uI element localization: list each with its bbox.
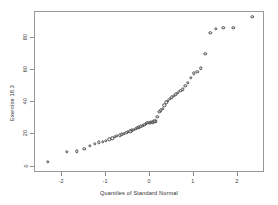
y-axis-tick-label: 80 — [22, 34, 28, 40]
data-point — [82, 147, 85, 150]
x-axis-tick-label: 2 — [235, 178, 238, 184]
data-point — [251, 15, 254, 18]
y-axis-label: Exercise 18.3 — [6, 0, 18, 205]
data-point — [232, 26, 235, 29]
data-point — [93, 142, 96, 145]
x-axis-tick — [61, 172, 62, 176]
x-axis-tick-label: 1 — [191, 178, 194, 184]
data-point — [161, 107, 164, 110]
x-axis-tick — [149, 172, 150, 176]
x-axis-tick-label: -1 — [103, 178, 108, 184]
data-point — [199, 67, 202, 70]
qq-plot-figure: -2-1012020406080 Quantiles of Standard N… — [0, 0, 278, 205]
data-point — [214, 27, 217, 30]
y-axis-tick-label: 0 — [25, 163, 28, 169]
data-point — [75, 150, 78, 153]
data-point — [154, 120, 157, 123]
y-axis-tick — [30, 37, 34, 38]
data-point — [181, 88, 184, 91]
x-axis-tick — [105, 172, 106, 176]
data-point — [208, 31, 211, 34]
x-axis-tick — [193, 172, 194, 176]
data-point — [204, 52, 207, 55]
data-point — [222, 26, 225, 29]
y-axis-tick — [30, 166, 34, 167]
plot-frame — [34, 11, 264, 172]
data-point — [156, 115, 159, 118]
data-point — [196, 70, 199, 73]
x-axis-tick-label: 0 — [147, 178, 150, 184]
y-axis-tick-label: 40 — [22, 98, 28, 104]
plot-area — [35, 12, 263, 171]
y-axis-tick-label: 20 — [22, 130, 28, 136]
y-axis-tick — [30, 101, 34, 102]
data-point — [88, 144, 91, 147]
y-axis-tick-label: 60 — [22, 66, 28, 72]
data-point — [189, 76, 192, 79]
data-point — [65, 150, 68, 153]
x-axis-tick — [237, 172, 238, 176]
data-point — [46, 160, 49, 163]
y-axis-label-text: Exercise 18.3 — [9, 85, 15, 121]
data-point — [186, 81, 189, 84]
y-axis-tick — [30, 133, 34, 134]
y-axis-tick — [30, 69, 34, 70]
x-axis-label: Quantiles of Standard Normal — [0, 190, 278, 196]
x-axis-tick-label: -2 — [59, 178, 64, 184]
data-point — [163, 104, 166, 107]
data-point — [183, 84, 186, 87]
